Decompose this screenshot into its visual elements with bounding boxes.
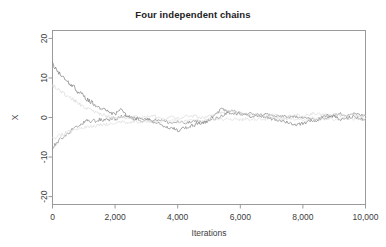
chain-trace-1: [53, 62, 366, 131]
plot-frame: [53, 31, 366, 205]
y-tick-label: -10: [39, 151, 49, 164]
x-tick-label: 8,000: [292, 212, 314, 222]
y-tick-label: -20: [39, 190, 49, 203]
trace-plot: -20-100102002,0004,0006,0008,00010,000It…: [0, 0, 386, 247]
x-tick-label: 4,000: [167, 212, 189, 222]
y-axis-title: X: [10, 114, 20, 120]
x-axis-title: Iterations: [192, 228, 227, 238]
chain-traces: [53, 62, 366, 149]
x-tick-label: 10,000: [353, 212, 379, 222]
chart-figure: Four independent chains -20-100102002,00…: [0, 0, 386, 247]
x-tick-label: 6,000: [230, 212, 252, 222]
chain-trace-3: [53, 85, 366, 121]
x-tick-label: 2,000: [104, 212, 126, 222]
x-tick-label: 0: [50, 212, 55, 222]
y-tick-label: 10: [39, 73, 49, 83]
y-tick-label: 0: [39, 115, 49, 120]
y-tick-label: 20: [39, 33, 49, 43]
